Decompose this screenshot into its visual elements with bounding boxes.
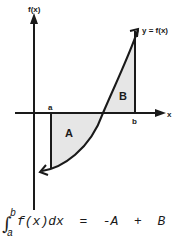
region-a-shading (51, 113, 103, 168)
y-axis-arrow-icon (30, 13, 38, 24)
upper-limit: b (10, 208, 16, 219)
integral-formula: ∫ b a f(x)dx = -A + B (2, 212, 181, 237)
x-axis-label: x (167, 110, 172, 119)
lower-limit: a (7, 228, 13, 237)
integral-diagram: f(x) x y = f(x) a b A B (0, 0, 181, 237)
curve-label: y = f(x) (142, 26, 168, 35)
formula-expression: f(x)dx = -A + B (17, 214, 165, 229)
region-a-label: A (65, 127, 73, 139)
x-axis-arrow-icon (155, 109, 166, 117)
label-a: a (48, 103, 53, 112)
label-b: b (132, 117, 137, 126)
y-axis-label: f(x) (28, 5, 41, 14)
region-b-label: B (119, 90, 127, 102)
